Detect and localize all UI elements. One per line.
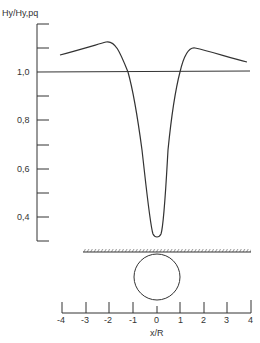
y-axis: 1,0 0,8 0,6 0,4 <box>17 24 49 241</box>
x-tick-label: 0 <box>154 315 159 325</box>
x-tick-label: -3 <box>81 315 89 325</box>
x-tick-label: 4 <box>248 315 253 325</box>
cylinder-circle <box>134 254 180 300</box>
x-tick-label: -1 <box>129 315 137 325</box>
x-tick-label: -4 <box>57 315 65 325</box>
y-tick-label-0-6: 0,6 <box>17 164 30 174</box>
x-tick-label: 2 <box>201 315 206 325</box>
chart-canvas: Hy/Hy,pq 1,0 0,8 0,6 0,4 <box>0 0 260 343</box>
x-axis-label: x/R <box>150 328 164 338</box>
y-tick-label-0-4: 0,4 <box>17 212 30 222</box>
reference-line-1-0 <box>37 71 250 72</box>
y-axis-label: Hy/Hy,pq <box>2 8 38 18</box>
x-tick-label: 1 <box>178 315 183 325</box>
ground-surface <box>83 249 251 252</box>
x-tick-label: 3 <box>224 315 229 325</box>
x-axis: -4 -3 -2 -1 0 1 2 3 4 x/R <box>57 300 253 338</box>
y-tick-label-0-8: 0,8 <box>17 115 30 125</box>
y-tick-label-1-0: 1,0 <box>17 67 30 77</box>
x-tick-label: -2 <box>104 315 112 325</box>
